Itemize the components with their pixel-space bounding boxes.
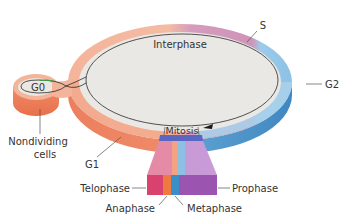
mitosis-front-face bbox=[147, 175, 217, 195]
metaphase-block bbox=[171, 175, 179, 195]
g0-label: G0 bbox=[31, 82, 45, 93]
g1-label: G1 bbox=[85, 159, 99, 170]
anaphase-leader bbox=[159, 196, 167, 205]
g1-leader bbox=[97, 137, 121, 157]
prophase-block bbox=[179, 175, 217, 195]
s-label: S bbox=[260, 20, 266, 31]
nondividing-label-line2: cells bbox=[34, 149, 56, 160]
metaphase-label: Metaphase bbox=[187, 203, 242, 214]
anaphase-block bbox=[163, 175, 171, 195]
metaphase-leader bbox=[175, 196, 183, 205]
anaphase-label: Anaphase bbox=[106, 203, 155, 214]
telophase-block bbox=[147, 175, 163, 195]
nondividing-label-line1: Nondividing bbox=[8, 136, 68, 147]
mitosis-label: Mitosis bbox=[166, 125, 199, 136]
g2-label: G2 bbox=[325, 79, 339, 90]
g0-connector bbox=[52, 78, 72, 98]
telophase-label: Telophase bbox=[79, 183, 130, 194]
interphase-label: Interphase bbox=[153, 39, 207, 50]
cell-cycle-diagram: S Interphase G0 G2 Nondividing cells G1 … bbox=[0, 0, 347, 222]
prophase-label: Prophase bbox=[232, 183, 278, 194]
